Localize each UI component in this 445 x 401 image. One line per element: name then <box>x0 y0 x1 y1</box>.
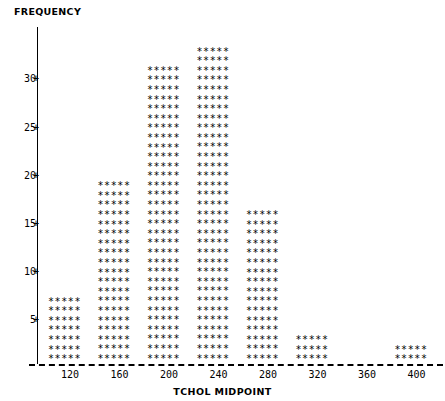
bar-star-row: ***** <box>98 354 142 364</box>
bar-star-row: ***** <box>395 354 439 364</box>
histogram-bar: *************** <box>296 335 340 364</box>
x-axis-tick-label: 200 <box>144 369 194 380</box>
x-axis-tick-label: 400 <box>392 369 442 380</box>
x-axis-tick-label: 240 <box>194 369 244 380</box>
x-axis-tick-label: 320 <box>293 369 343 380</box>
bar-star-row: ***** <box>296 354 340 364</box>
x-axis-tick-label: 280 <box>243 369 293 380</box>
histogram-bar: ****************************************… <box>197 47 241 364</box>
x-axis-title: TCHOL MIDPOINT <box>0 386 445 397</box>
bar-star-row: ***** <box>48 354 92 364</box>
bar-star-row: ***** <box>197 354 241 364</box>
histogram-chart: FREQUENCY 30+25+20+15+10+5+ ************… <box>0 0 445 401</box>
bar-star-row: ***** <box>147 354 191 364</box>
bars-layer: ****************************************… <box>0 0 445 401</box>
x-axis-line <box>29 364 443 366</box>
histogram-bar: ****************************************… <box>147 66 191 363</box>
histogram-bar: ****************************************… <box>246 210 290 364</box>
x-axis-tick-label: 160 <box>95 369 145 380</box>
histogram-bar: ****************************************… <box>98 181 142 363</box>
histogram-bar: ********** <box>395 345 439 364</box>
x-axis-tick-label: 360 <box>342 369 392 380</box>
bar-star-row: ***** <box>246 354 290 364</box>
x-axis-tick-label: 120 <box>45 369 95 380</box>
histogram-bar: *********************************** <box>48 297 92 364</box>
